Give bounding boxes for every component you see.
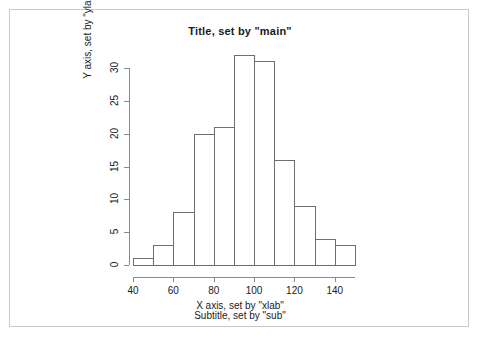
bar [254, 61, 275, 265]
bar [194, 134, 215, 265]
y-tick-label: 5 [109, 223, 120, 241]
y-tick-label: 15 [109, 157, 120, 175]
y-tick-label: 20 [109, 124, 120, 142]
baseline-tick [294, 265, 295, 266]
y-tick-label: 10 [109, 190, 120, 208]
x-tick [294, 277, 295, 282]
y-tick [124, 134, 129, 135]
y-tick [124, 199, 129, 200]
baseline-tick [254, 265, 255, 266]
baseline-tick [274, 265, 275, 266]
bar [274, 160, 295, 265]
x-tick-label: 120 [281, 285, 307, 296]
y-tick-label: 30 [109, 59, 120, 77]
bar [294, 206, 315, 265]
y-tick-label: 0 [109, 256, 120, 274]
baseline-tick [173, 265, 174, 266]
y-tick [124, 232, 129, 233]
y-tick [124, 167, 129, 168]
baseline-tick [335, 265, 336, 266]
chart-title: Title, set by "main" [0, 25, 480, 37]
x-tick-label: 60 [160, 285, 186, 296]
baseline-tick [355, 265, 356, 266]
bar-baseline [133, 265, 355, 266]
x-tick [133, 277, 134, 282]
x-tick [173, 277, 174, 282]
bar [214, 127, 235, 265]
x-tick [254, 277, 255, 282]
x-tick [335, 277, 336, 282]
x-tick-label: 80 [201, 285, 227, 296]
y-tick [124, 265, 129, 266]
x-axis-line [133, 277, 355, 278]
x-tick [214, 277, 215, 282]
plot-area [133, 55, 355, 265]
y-axis-line [129, 68, 130, 265]
baseline-tick [194, 265, 195, 266]
y-axis-label: Y axis, set by "ylab" [82, 0, 96, 100]
histogram-bars [133, 55, 355, 265]
baseline-tick [315, 265, 316, 266]
bar [335, 245, 356, 265]
baseline-tick [234, 265, 235, 266]
x-tick-label: 40 [120, 285, 146, 296]
y-tick [124, 68, 129, 69]
baseline-tick [133, 265, 134, 266]
bar [315, 239, 336, 265]
x-tick-label: 140 [322, 285, 348, 296]
figure-screenshot: Title, set by "main" Y axis, set by "yla… [0, 0, 480, 338]
baseline-tick [153, 265, 154, 266]
baseline-tick [214, 265, 215, 266]
bar [153, 245, 174, 265]
chart-subtitle: Subtitle, set by "sub" [0, 310, 480, 321]
bar [173, 212, 194, 265]
x-tick-label: 100 [241, 285, 267, 296]
bar [234, 55, 255, 265]
y-tick [124, 101, 129, 102]
y-tick-label: 25 [109, 91, 120, 109]
